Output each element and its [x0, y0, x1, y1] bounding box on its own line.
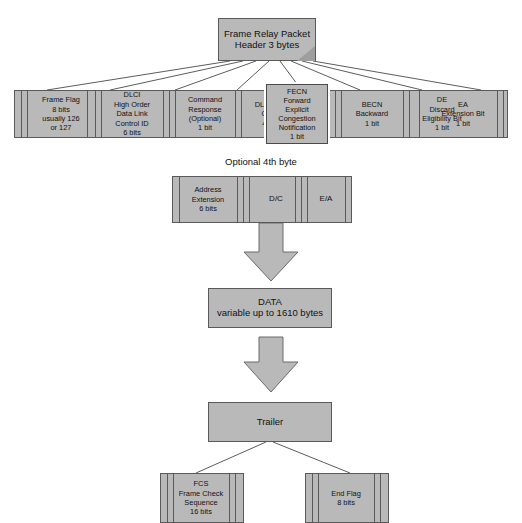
connector-to-dlci-high — [110, 61, 243, 90]
arrow-data-to-trailer — [244, 337, 298, 392]
header-field-command-response: Command Response (Optional) 1 bit — [175, 91, 235, 137]
connector-to-dlci-low — [237, 61, 269, 90]
fcs-field-strip: FCS Frame Check Sequence 16 bits — [160, 473, 244, 523]
optional-field-ea: E/A — [307, 177, 345, 222]
header-box-fold-corner — [297, 46, 315, 61]
trailer-box: Trailer — [208, 402, 332, 442]
connector-to-fcs — [196, 442, 266, 473]
optional-byte-strip: Address Extension 6 bits D/C E/A — [172, 176, 352, 223]
trailer-label: Trailer — [209, 417, 331, 428]
header-field-strip: Frame Flag 8 bits usually 126 or 127 DLC… — [14, 90, 508, 138]
connector-to-command-response — [175, 61, 256, 90]
connector-to-fecn — [280, 61, 297, 84]
connector-to-ea — [313, 61, 481, 90]
header-field-frame-flag: Frame Flag 8 bits usually 126 or 127 — [27, 91, 95, 137]
header-field-ea: EA Extension Bit 1 bit — [423, 91, 503, 137]
connector-to-frame-flag — [47, 61, 230, 90]
end-flag-field-strip: End Flag 8 bits — [305, 473, 389, 523]
data-box: DATA variable up to 1610 bytes — [208, 288, 332, 328]
optional-field-address-extension: Address Extension 6 bits — [179, 177, 237, 222]
header-field-becn: BECN Backward 1 bit — [341, 91, 403, 137]
arrow-optional-to-data — [244, 223, 298, 281]
trailer-field-fcs: FCS Frame Check Sequence 16 bits — [173, 474, 229, 522]
data-label: DATA variable up to 1610 bytes — [209, 297, 331, 318]
header-field-dlci-high-order: DLCI High Order Data Link Control ID 6 b… — [101, 91, 163, 137]
connector-to-end-flag — [273, 442, 350, 473]
header-field-fecn: FECN Forward Explicit Congestion Notific… — [266, 84, 328, 144]
trailer-field-end-flag: End Flag 8 bits — [318, 474, 374, 522]
optional-4th-byte-caption: Optional 4th byte — [0, 156, 522, 167]
